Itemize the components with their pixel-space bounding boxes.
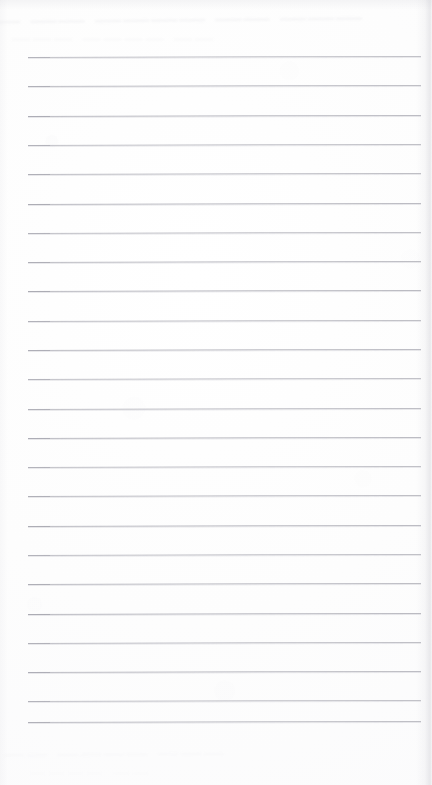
ruled-line bbox=[28, 466, 421, 468]
ruled-line bbox=[28, 554, 421, 556]
ruled-line bbox=[28, 583, 421, 585]
ruled-line bbox=[28, 203, 421, 205]
ruled-line bbox=[28, 721, 421, 723]
ruled-line bbox=[28, 290, 421, 292]
ruled-line bbox=[28, 56, 421, 58]
ruled-line bbox=[28, 85, 421, 87]
ruled-line bbox=[28, 320, 421, 322]
ruled-line bbox=[28, 437, 421, 439]
ruled-line bbox=[28, 495, 421, 497]
ruled-line bbox=[28, 349, 421, 351]
ruled-line bbox=[28, 115, 421, 117]
ruled-line bbox=[28, 671, 421, 673]
ruled-line bbox=[28, 408, 421, 410]
ruled-line bbox=[28, 642, 421, 644]
ruled-line bbox=[28, 173, 421, 175]
scanned-page: — —— ———— —— ——— ——— ———— —— —— ———— ———… bbox=[0, 0, 432, 785]
ruled-line bbox=[28, 144, 421, 146]
ruled-line bbox=[28, 378, 421, 380]
ruled-line bbox=[28, 525, 421, 527]
ruled-line bbox=[28, 261, 421, 263]
ruled-line bbox=[28, 613, 421, 615]
ruled-lines-group bbox=[0, 0, 432, 785]
ruled-line bbox=[28, 232, 421, 234]
ruled-line bbox=[28, 700, 421, 702]
